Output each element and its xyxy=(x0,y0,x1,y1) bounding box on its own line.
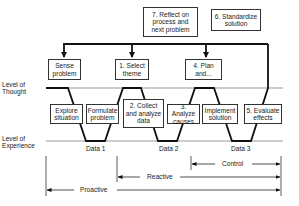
level-of-experience-label: Level of Experience xyxy=(2,135,35,150)
level-of-thought-label: Level of Thought xyxy=(2,81,26,96)
box-explore-situation: Explore situation xyxy=(50,104,83,124)
data-2-label: Data 2 xyxy=(159,145,178,152)
data-3-label: Data 3 xyxy=(231,145,250,152)
data-1-label: Data 1 xyxy=(86,145,105,152)
box-evaluate-effects: 5. Evaluate effects xyxy=(244,104,282,124)
box-implement-solution: Implement solution xyxy=(202,104,238,124)
reactive-label: Reactive xyxy=(145,173,175,180)
control-label: Control xyxy=(220,160,245,167)
box-collect-analyze-data: 2. Collect and analyze data xyxy=(123,99,164,128)
box-standardize: 6. Standardize solution xyxy=(211,9,261,31)
box-select-theme: 1. Select theme xyxy=(115,59,149,80)
proactive-label: Proactive xyxy=(78,186,110,193)
box-sense-problem: Sense problem xyxy=(48,59,81,80)
box-analyze-causes: 3. Analyze causes xyxy=(167,104,200,124)
feedback-bar xyxy=(64,44,268,57)
box-plan: 4. Plan and... xyxy=(185,59,222,80)
box-reflect: 7. Reflect on process and next problem xyxy=(143,7,198,37)
box-formulate-problem: Formulate problem xyxy=(86,104,119,124)
